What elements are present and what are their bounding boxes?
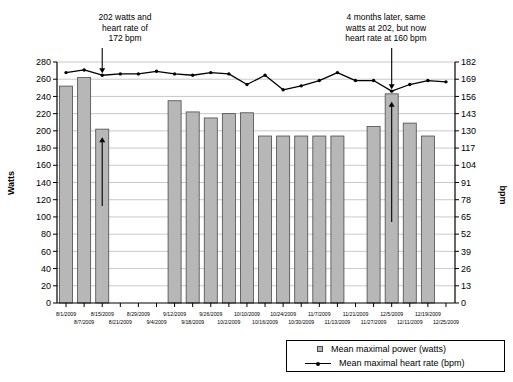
chart-figure: 0204060801001201401601802002202402602800… xyxy=(0,0,513,382)
y-axis-right-tick-label: 143 xyxy=(461,109,476,119)
data-point-heart-rate xyxy=(408,83,411,86)
y-axis-right-tick-label: 13 xyxy=(461,281,471,291)
bar-mean-maximal-power xyxy=(222,114,235,303)
bar-mean-maximal-power xyxy=(168,101,181,303)
y-axis-left-tick-label: 80 xyxy=(41,229,51,239)
y-axis-left-tick-label: 60 xyxy=(41,247,51,257)
x-axis-tick-label: 11/13/2009 xyxy=(325,319,351,325)
data-point-heart-rate xyxy=(372,79,375,82)
data-point-heart-rate xyxy=(300,84,303,87)
bar-mean-maximal-power xyxy=(421,136,434,303)
data-point-heart-rate xyxy=(245,83,248,86)
y-axis-left-tick-label: 220 xyxy=(36,109,51,119)
y-axis-right-tick-label: 156 xyxy=(461,92,476,102)
bar-mean-maximal-power xyxy=(331,136,344,303)
bar-mean-maximal-power xyxy=(313,136,326,303)
y-axis-right-tick-label: 39 xyxy=(461,247,471,257)
y-axis-right-tick-label: 65 xyxy=(461,212,471,222)
x-axis-tick-label: 12/5/2009 xyxy=(380,311,403,317)
bar-mean-maximal-power xyxy=(403,123,416,303)
bar-mean-maximal-power xyxy=(367,127,380,303)
y-axis-right-tick-label: 130 xyxy=(461,126,476,136)
x-axis-tick-label: 10/16/2009 xyxy=(252,319,278,325)
y-axis-left-tick-label: 280 xyxy=(36,57,51,67)
data-point-heart-rate xyxy=(263,74,266,77)
data-point-heart-rate xyxy=(155,70,158,73)
bar-mean-maximal-power xyxy=(78,77,91,303)
bar-mean-maximal-power xyxy=(60,86,73,303)
x-axis-tick-label: 8/21/2009 xyxy=(109,319,132,325)
y-axis-right-tick-label: 182 xyxy=(461,57,476,67)
y-axis-right-tick-label: 91 xyxy=(461,178,471,188)
data-point-heart-rate xyxy=(209,71,212,74)
annotation-left-text: 202 watts and heart rate of 172 bpm xyxy=(62,12,188,44)
x-axis-tick-label: 10/2/2009 xyxy=(217,319,240,325)
x-axis-tick-label: 11/21/2009 xyxy=(343,311,369,317)
legend-item-power: Mean maximal power (watts) xyxy=(293,342,446,356)
y-axis-right-title: bpm xyxy=(498,175,508,215)
y-axis-right-tick-label: 26 xyxy=(461,264,471,274)
x-axis-tick-label: 12/11/2009 xyxy=(397,319,423,325)
bar-mean-maximal-power xyxy=(295,136,308,303)
y-axis-right-tick-label: 169 xyxy=(461,74,476,84)
bar-mean-maximal-power xyxy=(259,136,272,303)
y-axis-left-tick-label: 20 xyxy=(41,281,51,291)
data-point-heart-rate xyxy=(336,71,339,74)
y-axis-right-tick-label: 0 xyxy=(461,298,466,308)
bar-mean-maximal-power xyxy=(277,136,290,303)
data-point-heart-rate xyxy=(354,79,357,82)
data-point-heart-rate xyxy=(281,88,284,91)
y-axis-left-tick-label: 200 xyxy=(36,126,51,136)
y-axis-left-tick-label: 180 xyxy=(36,143,51,153)
bar-mean-maximal-power xyxy=(240,113,253,303)
y-axis-left-tick-label: 260 xyxy=(36,74,51,84)
chart-canvas: 0204060801001201401601802002202402602800… xyxy=(0,0,513,382)
data-point-heart-rate xyxy=(191,74,194,77)
data-point-heart-rate xyxy=(426,79,429,82)
data-point-heart-rate xyxy=(82,68,85,71)
y-axis-left-tick-label: 140 xyxy=(36,178,51,188)
x-axis-tick-label: 8/15/2009 xyxy=(91,311,114,317)
bar-mean-maximal-power xyxy=(204,118,217,303)
x-axis-tick-label: 9/12/2009 xyxy=(163,311,186,317)
x-axis-tick-label: 10/24/2009 xyxy=(270,311,296,317)
y-axis-right-tick-label: 52 xyxy=(461,229,471,239)
x-axis-tick-label: 10/10/2009 xyxy=(234,311,260,317)
x-axis-tick-label: 11/7/2009 xyxy=(308,311,331,317)
data-point-heart-rate xyxy=(390,89,393,92)
x-axis-tick-label: 8/29/2009 xyxy=(127,311,150,317)
data-point-heart-rate xyxy=(119,72,122,75)
y-axis-left-tick-label: 240 xyxy=(36,92,51,102)
y-axis-left-tick-label: 160 xyxy=(36,160,51,170)
x-axis-tick-label: 9/18/2009 xyxy=(181,319,204,325)
x-axis-tick-label: 8/1/2009 xyxy=(56,311,76,317)
data-point-heart-rate xyxy=(64,71,67,74)
y-axis-right-tick-label: 78 xyxy=(461,195,471,205)
y-axis-left-tick-label: 100 xyxy=(36,212,51,222)
data-point-heart-rate xyxy=(101,74,104,77)
y-axis-left-tick-label: 40 xyxy=(41,264,51,274)
data-point-heart-rate xyxy=(137,72,140,75)
data-point-heart-rate xyxy=(318,79,321,82)
legend-line-icon xyxy=(305,363,331,364)
x-axis-tick-label: 9/4/2009 xyxy=(146,319,166,325)
y-axis-right-tick-label: 117 xyxy=(461,143,475,153)
legend-label-heart-rate: Mean maximal heart rate (bpm) xyxy=(339,358,465,368)
data-point-heart-rate xyxy=(227,72,230,75)
x-axis-tick-label: 12/25/2009 xyxy=(433,319,459,325)
x-axis-tick-label: 9/26/2009 xyxy=(199,311,222,317)
legend-swatch-icon xyxy=(317,346,323,352)
y-axis-left-title: Watts xyxy=(6,163,16,203)
legend-label-power: Mean maximal power (watts) xyxy=(331,344,446,354)
annotation-right-text: 4 months later, same watts at 202, but n… xyxy=(316,12,456,44)
chart-legend: Mean maximal power (watts) Mean maximal … xyxy=(286,340,505,372)
data-point-heart-rate xyxy=(444,80,447,83)
data-point-heart-rate xyxy=(173,72,176,75)
legend-item-heart-rate: Mean maximal heart rate (bpm) xyxy=(293,356,465,370)
x-axis-tick-label: 11/27/2009 xyxy=(361,319,387,325)
y-axis-right-tick-label: 104 xyxy=(461,160,476,170)
y-axis-left-tick-label: 120 xyxy=(36,195,51,205)
x-axis-tick-label: 10/30/2009 xyxy=(288,319,314,325)
y-axis-left-tick-label: 0 xyxy=(46,298,51,308)
bar-mean-maximal-power xyxy=(186,112,199,303)
